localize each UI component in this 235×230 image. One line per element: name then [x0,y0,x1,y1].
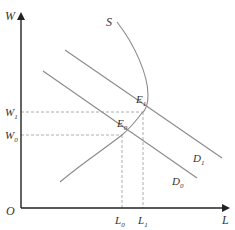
w1-label-sub: 1 [14,113,18,121]
l0-label: L0 [114,214,125,229]
d0-label-sub: 0 [180,182,184,190]
l0-label-sub: 0 [121,221,125,229]
d1-label: D1 [192,152,204,167]
axes [21,14,228,208]
d0-label-main: D [171,175,180,187]
l1-label-main: L [137,214,144,226]
l0-label-main: L [114,214,121,226]
supply-curve-s [60,22,148,182]
w0-label-sub: 0 [14,136,18,144]
e0-label: E0 [116,117,128,132]
supply-label: S [106,15,112,29]
x-axis-label: L [221,213,229,227]
y-axis-label: W [5,9,16,23]
l1-label-sub: 1 [144,221,148,229]
d0-label: D0 [171,175,184,190]
e0-label-sub: 0 [124,124,128,132]
d1-label-sub: 1 [201,159,205,167]
w1-label: W1 [5,106,18,121]
origin-label: O [6,204,15,218]
labor-market-diagram: W L O S D1 D0 E1 E0 W1 W0 L0 L1 [0,0,235,230]
e1-label-sub: 1 [143,100,147,108]
w0-label: W0 [5,129,18,144]
e1-label: E1 [135,93,146,108]
d1-label-main: D [192,152,201,164]
l1-label: L1 [137,214,148,229]
